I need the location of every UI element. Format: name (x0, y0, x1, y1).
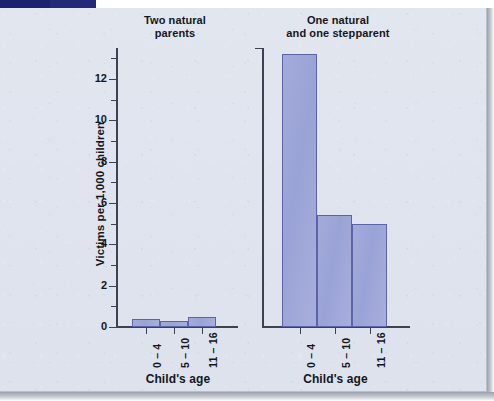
x-tick-label: 0 – 4 (305, 344, 317, 368)
panel-title-right-line2: and one stepparent (258, 27, 418, 40)
x-tick (202, 328, 203, 334)
y-tick-label: 4 (85, 237, 107, 249)
y-tick-major (109, 120, 116, 121)
y-tick-minor (111, 306, 116, 307)
x-axis-title-left: Child's age (108, 372, 248, 386)
y-tick-major (109, 162, 116, 163)
plot-area-left (118, 48, 238, 327)
x-tick (335, 328, 336, 334)
bar (282, 54, 317, 327)
x-tick-label: 11 – 16 (207, 332, 219, 368)
y-axis-labels: Victims per 1,000 children 024681012 (62, 0, 107, 401)
panel-title-left-line2: parents (110, 27, 240, 40)
y-tick-minor (111, 58, 116, 59)
bar (317, 215, 352, 327)
y-tick-label: 10 (85, 113, 107, 125)
plot-area-right (262, 48, 410, 327)
panel-title-left-line1: Two natural (110, 14, 240, 27)
y-tick-minor (111, 100, 116, 101)
y-axis-title: Victims per 1,000 children (94, 99, 106, 289)
y-axis-top-tick-right (255, 48, 262, 49)
x-tick (174, 328, 175, 334)
y-tick-major (109, 203, 116, 204)
x-tick-label: 5 – 10 (340, 338, 352, 368)
x-tick-label: 0 – 4 (151, 344, 163, 368)
x-tick (146, 328, 147, 334)
bar (160, 321, 188, 327)
bar (352, 224, 387, 327)
bar (188, 317, 216, 327)
y-tick-label: 6 (85, 196, 107, 208)
y-tick-label: 12 (85, 72, 107, 84)
chart: Two natural parents One natural and one … (0, 0, 494, 401)
y-tick-major (109, 327, 116, 328)
y-tick-label: 8 (85, 155, 107, 167)
y-tick-label: 0 (85, 320, 107, 332)
y-tick-major (109, 79, 116, 80)
x-tick-label: 5 – 10 (179, 338, 191, 368)
bar (132, 319, 160, 327)
y-tick-major (109, 286, 116, 287)
x-tick-label: 11 – 16 (375, 332, 387, 368)
y-tick-minor (111, 182, 116, 183)
x-axis-title-right: Child's age (258, 372, 413, 386)
scanned-page: Two natural parents One natural and one … (0, 0, 494, 401)
x-tick (300, 328, 301, 334)
y-tick-label: 2 (85, 279, 107, 291)
panel-title-right-line1: One natural (258, 14, 418, 27)
y-tick-major (109, 244, 116, 245)
y-tick-minor (111, 265, 116, 266)
y-tick-minor (111, 224, 116, 225)
x-tick (370, 328, 371, 334)
panel-title-left: Two natural parents (110, 14, 240, 40)
y-tick-minor (111, 141, 116, 142)
panel-title-right: One natural and one stepparent (258, 14, 418, 40)
